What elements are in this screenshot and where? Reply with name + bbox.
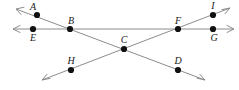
label-D: D (173, 55, 182, 66)
point-F (175, 26, 181, 32)
point-C (121, 46, 127, 52)
label-A: A (29, 1, 37, 12)
point-H (68, 67, 74, 73)
label-E: E (29, 32, 36, 43)
labels-group: A B C D E F G H I (29, 0, 218, 66)
point-B (67, 26, 73, 32)
label-F: F (174, 15, 182, 26)
label-I: I (210, 0, 215, 11)
geometry-diagram: A B C D E F G H I (0, 0, 239, 90)
point-I (210, 12, 216, 18)
point-A (34, 12, 40, 18)
point-D (175, 67, 181, 73)
geometry-svg-canvas: A B C D E F G H I (0, 0, 239, 90)
label-B: B (68, 15, 74, 26)
label-G: G (210, 32, 217, 43)
label-H: H (66, 55, 75, 66)
label-C: C (121, 34, 128, 45)
